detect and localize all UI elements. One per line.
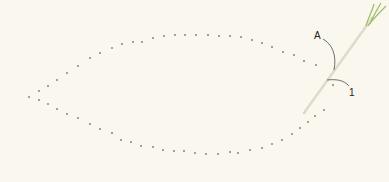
outline-dot <box>261 42 263 44</box>
dotted-leaf-outline <box>28 34 334 155</box>
outline-dot <box>152 146 154 148</box>
outline-dot <box>303 60 305 62</box>
outline-dot <box>184 34 186 36</box>
outline-dot <box>132 41 134 43</box>
outline-dot <box>111 132 113 134</box>
outline-dot <box>195 34 197 36</box>
label-1: 1 <box>349 88 355 98</box>
outline-dot <box>281 139 283 141</box>
outline-dot <box>66 72 68 74</box>
outline-dot <box>315 64 317 66</box>
outline-dot <box>173 150 175 152</box>
outline-dot <box>205 153 207 155</box>
outline-dot <box>38 99 40 101</box>
outline-dot <box>271 46 273 48</box>
outline-dot <box>291 133 293 135</box>
outline-dot <box>323 109 325 111</box>
outline-dot <box>130 141 132 143</box>
diagram-canvas <box>0 0 389 182</box>
outline-dot <box>89 57 91 59</box>
outline-dot <box>89 123 91 125</box>
outline-dot <box>217 153 219 155</box>
outline-dot <box>99 52 101 54</box>
outline-dot <box>38 90 40 92</box>
outline-dot <box>162 149 164 151</box>
outline-dot <box>121 43 123 45</box>
outline-dot <box>229 35 231 37</box>
outline-dot <box>237 152 239 154</box>
outline-dot <box>28 96 30 98</box>
outline-dot <box>293 54 295 56</box>
stitching-diagram: A 1 <box>0 0 389 182</box>
outline-dot <box>194 152 196 154</box>
outline-dot <box>218 35 220 37</box>
outline-dot <box>207 34 209 36</box>
outline-dot <box>120 139 122 141</box>
outline-dot <box>111 47 113 49</box>
outline-dot <box>314 115 316 117</box>
outline-dot <box>47 103 49 105</box>
label-a: A <box>314 31 321 41</box>
outline-dot <box>261 147 263 149</box>
outline-dot <box>163 35 165 37</box>
outline-dot <box>174 34 176 36</box>
outline-dot <box>152 37 154 39</box>
outline-dot <box>282 51 284 53</box>
outline-dot <box>251 39 253 41</box>
outline-dot <box>183 150 185 152</box>
outline-dot <box>332 84 334 86</box>
outline-dot <box>249 149 251 151</box>
outline-dot <box>271 143 273 145</box>
outline-dot <box>141 41 143 43</box>
outline-dot <box>47 85 49 87</box>
outline-dot <box>56 79 58 81</box>
leader-line-a <box>323 39 335 70</box>
outline-dot <box>229 151 231 153</box>
outline-dot <box>299 127 301 129</box>
leader-line-1 <box>327 80 349 86</box>
outline-dot <box>240 36 242 38</box>
outline-dot <box>307 121 309 123</box>
outline-dot <box>56 108 58 110</box>
outline-dot <box>77 117 79 119</box>
outline-dot <box>140 145 142 147</box>
outline-dot <box>66 113 68 115</box>
outline-dot <box>99 128 101 130</box>
outline-dot <box>77 65 79 67</box>
